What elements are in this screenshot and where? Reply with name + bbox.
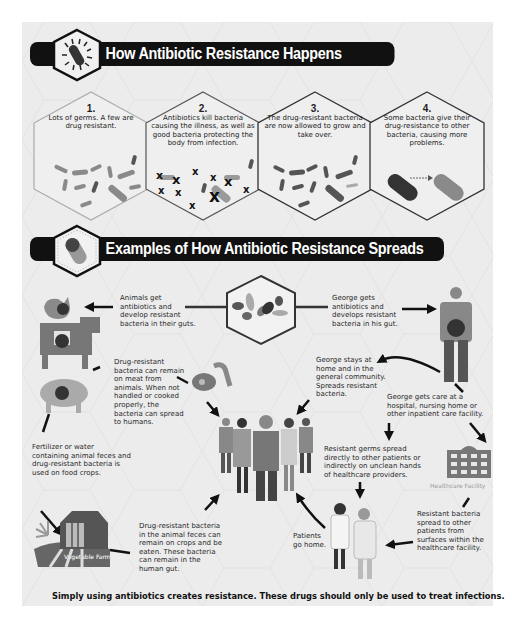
text-crops: Drug-resistant bacteria in the animal fe… — [139, 522, 225, 574]
footer-message: Simply using antibiotics creates resista… — [52, 591, 505, 601]
text-surfaces: Resistant bacteria spread to other patie… — [417, 510, 495, 553]
healthcare-facility-label: Healthcare Facility — [430, 482, 485, 489]
text-george-gets-antibiotics: George gets antibiotics and develops res… — [332, 294, 412, 328]
gut-bacteria-icon — [447, 319, 465, 337]
pig-icon — [40, 379, 88, 413]
vegetable-farm-icon — [32, 505, 112, 575]
text-george-stays-home: George stays at home and in the general … — [316, 356, 392, 399]
meat-icon — [190, 360, 234, 396]
chicken-icon — [44, 297, 70, 319]
patients-icon — [327, 503, 381, 583]
text-meat: Drug-resistant bacteria can remain on me… — [114, 358, 186, 427]
cow-icon — [40, 317, 100, 369]
text-fertilizer: Fertilizer or water containing animal fe… — [32, 443, 132, 477]
healthcare-facility-icon — [447, 442, 491, 478]
text-patients-go-home: Patients go home. — [293, 532, 327, 549]
community-people-icon — [216, 414, 316, 506]
animals-icon — [36, 293, 106, 423]
text-resistant-germs-spread: Resistant germs spread directly to other… — [324, 445, 428, 479]
text-animals-get-antibiotics: Animals get antibiotics and develop resi… — [120, 294, 200, 328]
text-george-gets-care: George gets care at a hospital, nursing … — [387, 393, 493, 419]
george-figure — [430, 286, 482, 386]
vegetable-farm-label: Vegetable Farm — [64, 553, 111, 560]
